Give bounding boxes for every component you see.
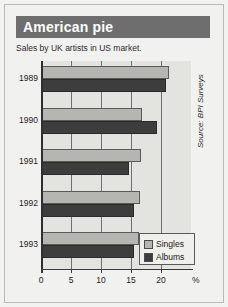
bar-albums-1989[interactable] xyxy=(41,79,166,92)
category-axis-line xyxy=(41,269,193,270)
legend-label-albums: Albums xyxy=(156,252,184,262)
y-axis-label-1992: 1992 xyxy=(14,198,38,208)
bar-group xyxy=(41,103,191,145)
value-axis-line xyxy=(41,61,43,273)
chart-legend: Singles Albums xyxy=(139,233,195,265)
bar-singles-1990[interactable] xyxy=(41,108,142,121)
legend-label-singles: Singles xyxy=(156,239,184,249)
page-title: American pie xyxy=(23,19,113,35)
x-axis-label-0: 0 xyxy=(29,275,53,285)
x-tick-20 xyxy=(161,269,162,273)
x-axis-label-15: 15 xyxy=(119,275,143,285)
y-axis-label-1993: 1993 xyxy=(14,239,38,249)
bar-singles-1993[interactable] xyxy=(41,232,139,245)
x-tick-0 xyxy=(41,269,42,273)
x-axis-unit-label: % xyxy=(192,275,200,285)
bar-singles-1991[interactable] xyxy=(41,149,141,162)
x-tick-5 xyxy=(71,269,72,273)
x-axis-label-10: 10 xyxy=(89,275,113,285)
bar-singles-1989[interactable] xyxy=(41,66,169,79)
bar-albums-1991[interactable] xyxy=(41,162,129,175)
y-axis-label-1989: 1989 xyxy=(14,73,38,83)
x-axis-label-5: 5 xyxy=(59,275,83,285)
chart-title-bar: American pie xyxy=(16,16,210,38)
x-tick-15 xyxy=(131,269,132,273)
bar-group xyxy=(41,61,191,103)
legend-swatch-singles-icon xyxy=(144,240,153,249)
legend-swatch-albums-icon xyxy=(144,253,153,262)
bar-group xyxy=(41,144,191,186)
bar-singles-1992[interactable] xyxy=(41,191,140,204)
bar-albums-1990[interactable] xyxy=(41,121,157,134)
bar-albums-1993[interactable] xyxy=(41,245,134,258)
x-tick-10 xyxy=(101,269,102,273)
source-note: Source: BPI Surveys xyxy=(196,74,205,148)
chart-subtitle: Sales by UK artists in US market. xyxy=(16,43,142,53)
y-axis-label-1990: 1990 xyxy=(14,115,38,125)
chart-figure: American pie Sales by UK artists in US m… xyxy=(0,0,228,307)
bar-albums-1992[interactable] xyxy=(41,204,134,217)
bar-group xyxy=(41,186,191,228)
x-axis-label-20: 20 xyxy=(149,275,173,285)
y-axis-label-1991: 1991 xyxy=(14,156,38,166)
